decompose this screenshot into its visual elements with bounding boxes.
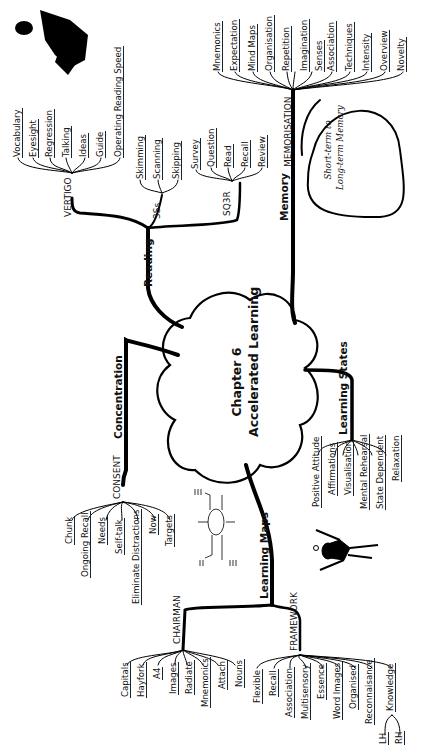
center-title-line1: Chapter 6 [228,327,245,437]
leaf-consent: Chunk [64,516,75,545]
leaf-vertigo: Talking [61,126,72,158]
memory-note-line1: Short-term to [322,110,334,190]
leaf-vertigo: Eyesight [28,119,39,158]
leaf-framework: Word Images [332,662,343,720]
leaf-chairman: A4 [152,667,163,680]
leaf-memorisation: Repetition [281,26,292,72]
leaf-consent: Eliminate Distractions [131,509,142,605]
leaf-vertigo: Regression [44,109,55,158]
leaf-sq3r: Recall [240,140,251,168]
leaf-chairman: Attach [217,660,228,690]
leaf-framework: Knowledge [385,663,396,712]
mind-map: Chapter 6 Accelerated Learning Reading M… [0,0,421,747]
leaf-consent: Self-talk [114,518,125,555]
leaf-framework: Flexible [252,669,263,704]
leaf-sq3r: Survey [190,138,201,170]
leaf-framework: Essence [316,663,327,700]
leaf-consent: Now [148,514,159,535]
branch-memory: Memory [279,172,289,222]
dancing-figure-illustration [314,530,379,570]
memory-note-line2: Long-term Memory [334,110,346,190]
leaf-learning-states: Mental Rehearsal [359,434,370,510]
leaf-memorisation: Novelty [396,37,407,72]
leaf-memorisation: Intensity [361,33,372,72]
leaf-memorisation: Mind Maps [247,24,258,72]
leaf-memorisation: Expectation [229,19,240,72]
sub-chairman: CHAIRMAN [172,594,182,645]
leaf-memorisation: Senses [314,40,325,72]
sub-vertigo: VERTIGO [63,176,73,218]
leaf-3ss: Scanning [152,138,163,180]
sub-consent: CONSENT [112,454,122,500]
leaf-knowledge-rh: RH [394,731,405,745]
leaf-framework: Organised [348,664,359,710]
leaf-chairman: Radiate [184,660,195,695]
leaf-learning-states: State Dependent [375,435,386,510]
branch-learning-maps: Learning Maps [259,511,269,600]
leaf-knowledge-lh: LH [378,732,389,745]
leaf-memorisation: Techniques [344,22,355,72]
leaf-vertigo: Ideas [78,133,89,158]
leaf-consent: Ongoing Recall [80,511,91,578]
leaf-chairman: Hayfork [136,662,147,698]
leaf-3ss: Skimming [135,135,146,180]
leaf-memorisation: Mnemonics [212,21,223,72]
leaf-sq3r: Review [257,135,268,168]
leaf-learning-states: Affirmations [327,442,338,496]
leaf-consent: Targets [164,514,175,547]
leaf-sq3r: Question [206,128,217,168]
leaf-memorisation: Organisation [264,15,275,72]
leaf-memorisation: Imagination [299,19,310,72]
leaf-vertigo: Guide [95,131,106,158]
leaf-sq3r: Read [223,144,234,168]
center-title-line2: Accelerated Learning [245,327,262,437]
memory-note: Short-term to Long-term Memory [322,110,346,190]
branch-lines [0,0,421,747]
leaf-learning-states: Visualisation [343,440,354,496]
leaf-chairman: Nouns [234,659,245,688]
leaf-chairman: Images [168,662,179,695]
leaf-framework: Association [284,667,295,718]
man-reading-illustration [15,10,88,75]
mini-map-illustration [195,489,236,566]
leaf-3ss: Skipping [171,141,182,180]
branch-learning-states: Learning States [338,340,348,436]
sub-3ss: 3Ss [152,202,162,220]
sub-sq3r: SQ3R [222,190,232,217]
leaf-chairman: Mnemonics [200,657,211,708]
leaf-consent: Needs [97,516,108,545]
leaf-vertigo: Vocabulary [12,108,23,158]
leaf-framework: Multisensory [300,663,311,720]
leaf-chairman: Capitals [120,661,131,698]
sub-framework: FRAMEWORK [289,591,299,652]
center-title: Chapter 6 Accelerated Learning [228,327,262,437]
branch-concentration: Concentration [113,354,123,440]
sub-memorisation: MEMORISATION [283,95,293,168]
leaf-memorisation: Association [326,21,337,72]
branch-reading: Reading [143,238,153,288]
leaf-memorisation: Overview [379,30,390,72]
leaf-vertigo: Operating Reading Speed [113,46,124,158]
leaf-framework: Reconnaisance [364,658,375,725]
leaf-learning-states: Relaxation [391,435,402,482]
leaf-framework: Recall [268,669,279,697]
leaf-learning-states: Positive Attitude [311,436,322,508]
